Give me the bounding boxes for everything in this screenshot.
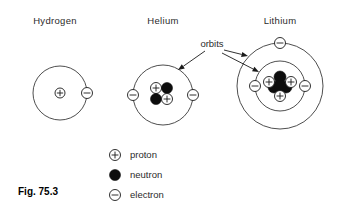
legend-item-neutron: neutron: [110, 169, 163, 181]
electron-particle-lithium-1: [250, 81, 261, 92]
nucleus-helium: [151, 83, 173, 105]
legend-label-neutron: neutron: [130, 169, 162, 180]
nucleus-lithium: [264, 71, 297, 102]
electron-particle-helium-2: [188, 90, 199, 101]
electron-particle-lithium-3: [275, 38, 286, 49]
atom-lithium: Lithium: [237, 15, 323, 129]
diagram-canvas: HydrogenHeliumLithium orbits protonneutr…: [0, 0, 339, 213]
proton-particle-lithium-6: [286, 77, 297, 88]
figure-caption: Fig. 75.3: [18, 186, 58, 197]
legend-item-proton: proton: [110, 149, 157, 161]
proton-particle-lithium-7: [275, 91, 286, 102]
nucleus-hydrogen: [55, 88, 65, 98]
proton-particle-lithium-5: [264, 77, 275, 88]
proton-particle-helium-1: [151, 83, 162, 94]
atom-hydrogen: Hydrogen: [33, 15, 93, 120]
legend-label-electron: electron: [130, 189, 164, 200]
legend-item-electron: electron: [110, 189, 164, 201]
legend-group: protonneutronelectron: [110, 149, 164, 201]
orbits-annotation-group: orbits: [178, 38, 259, 72]
electron-particle-lithium-2: [300, 81, 311, 92]
atomic-structure-figure: HydrogenHeliumLithium orbits protonneutr…: [0, 0, 339, 213]
proton-particle-hydrogen-1: [55, 88, 65, 98]
orbits-label: orbits: [200, 38, 223, 49]
legend-proton-symbol-icon: [110, 150, 121, 161]
atom-title-hydrogen: Hydrogen: [33, 15, 77, 26]
legend-electron-symbol-icon: [110, 190, 121, 201]
arrow-to-helium-orbit: [178, 51, 205, 70]
neutron-particle-helium-3: [151, 94, 162, 105]
atom-title-helium: Helium: [147, 15, 178, 26]
atoms-group: HydrogenHeliumLithium: [33, 15, 323, 129]
proton-particle-helium-4: [162, 94, 173, 105]
legend-neutron-symbol-icon: [110, 170, 121, 181]
legend-label-proton: proton: [130, 149, 157, 160]
atom-title-lithium: Lithium: [264, 15, 297, 26]
neutron-particle-helium-2: [162, 83, 173, 94]
electron-particle-hydrogen-1: [82, 88, 93, 99]
atom-helium: Helium: [128, 15, 199, 125]
electron-particle-helium-1: [128, 90, 139, 101]
